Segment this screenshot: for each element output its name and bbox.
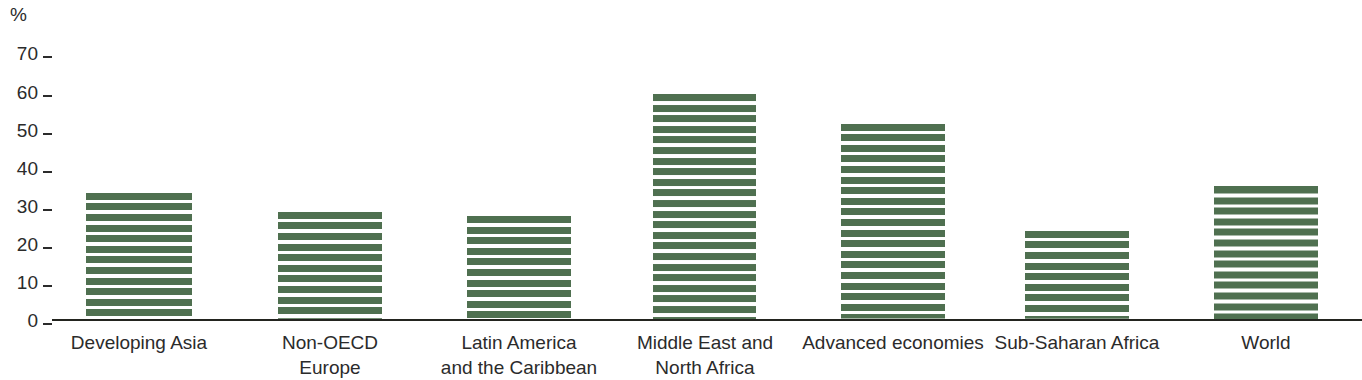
x-axis-label-line: and the Caribbean	[424, 355, 614, 380]
x-axis-category-label: World	[1171, 330, 1361, 355]
bar	[653, 94, 756, 319]
x-axis-label-line: North Africa	[610, 355, 800, 380]
bar	[467, 216, 571, 319]
x-axis-label-line: Sub-Saharan Africa	[995, 332, 1160, 353]
x-axis-category-label: Sub-Saharan Africa	[982, 330, 1172, 355]
x-axis-category-label: Non-OECDEurope	[235, 330, 425, 380]
bar	[1025, 231, 1129, 319]
bar	[278, 212, 382, 319]
x-axis-label-line: Non-OECD	[282, 332, 378, 353]
x-axis-label-line: World	[1241, 332, 1290, 353]
bar	[1214, 186, 1318, 320]
x-axis-category-label: Middle East andNorth Africa	[610, 330, 800, 380]
x-axis-label-line: Middle East and	[637, 332, 773, 353]
x-axis-label-line: Latin America	[461, 332, 576, 353]
x-axis-baseline	[52, 319, 1362, 321]
x-axis-label-line: Europe	[235, 355, 425, 380]
x-axis-label-line: Advanced economies	[802, 332, 984, 353]
x-axis-category-label: Latin Americaand the Caribbean	[424, 330, 614, 380]
bar	[86, 193, 192, 319]
x-axis-label-line: Developing Asia	[71, 332, 207, 353]
bar	[841, 124, 945, 319]
x-axis-category-label: Developing Asia	[44, 330, 234, 355]
x-axis-category-label: Advanced economies	[798, 330, 988, 355]
